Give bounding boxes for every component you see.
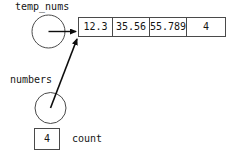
numbers-pointer-circle <box>35 93 66 124</box>
count-box: 4 <box>34 128 60 150</box>
temp-nums-label: temp_nums <box>15 1 69 12</box>
array-cell-1: 35.56 <box>113 18 150 36</box>
numbers-arrow <box>51 39 78 108</box>
value-array: 12.3 35.56 55.789 4 <box>78 17 226 37</box>
temp-nums-pointer-circle <box>32 15 65 48</box>
numbers-label: numbers <box>10 74 52 85</box>
array-cell-3: 4 <box>187 18 225 36</box>
diagram-canvas: temp_nums numbers 12.3 35.56 55.789 4 4 … <box>0 0 232 153</box>
array-cell-0: 12.3 <box>79 18 113 36</box>
array-cell-2: 55.789 <box>150 18 187 36</box>
count-label: count <box>72 133 102 144</box>
clipped-bottom-text <box>62 147 232 153</box>
